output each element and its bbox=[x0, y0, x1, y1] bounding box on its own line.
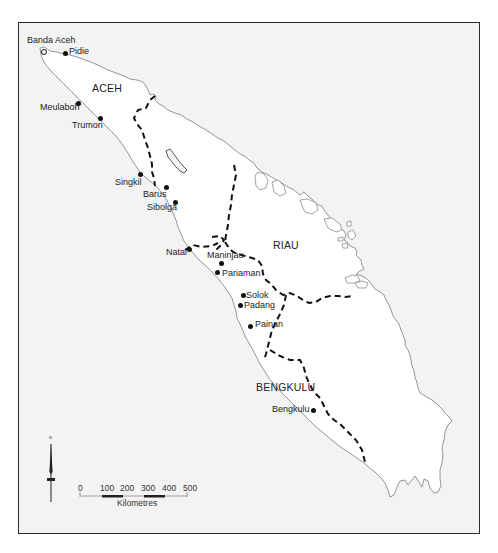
town-label-banda-aceh: Banda Aceh bbox=[27, 36, 76, 45]
region-label-bengkulu: BENGKULU bbox=[256, 382, 315, 393]
region-label-riau: RIAU bbox=[273, 240, 299, 251]
north-arrow bbox=[47, 444, 55, 502]
town-label-painan: Painan bbox=[255, 320, 283, 329]
town-marker-pidie bbox=[63, 51, 68, 56]
town-label-meulaboh: Meulaboh bbox=[40, 103, 80, 112]
scale-tick-300: 300 bbox=[141, 484, 155, 493]
town-label-solok: Solok bbox=[246, 291, 269, 300]
scale-tick-100: 100 bbox=[100, 484, 114, 493]
scale-tick-400: 400 bbox=[162, 484, 176, 493]
north-arrow-label: N bbox=[49, 436, 52, 440]
region-label-aceh: ACEH bbox=[92, 83, 122, 94]
scale-tick-200: 200 bbox=[120, 484, 134, 493]
town-marker-pariaman bbox=[215, 270, 220, 275]
town-label-bengkulu: Bengkulu bbox=[272, 405, 310, 414]
town-marker-banda-aceh bbox=[41, 49, 47, 55]
town-marker-painan bbox=[248, 324, 253, 329]
town-label-natal: Natal bbox=[166, 248, 187, 257]
town-label-trumon: Trumon bbox=[72, 121, 103, 130]
town-label-pariaman: Pariaman bbox=[222, 269, 261, 278]
town-label-padang: Padang bbox=[244, 301, 275, 310]
scale-tick-500: 500 bbox=[183, 484, 197, 493]
town-label-maninjau: Maninjau bbox=[207, 251, 244, 260]
town-label-pidie: Pidie bbox=[69, 47, 89, 56]
town-marker-maninjau bbox=[219, 261, 224, 266]
scale-tick-0: 0 bbox=[78, 484, 83, 493]
town-marker-bengkulu bbox=[311, 408, 316, 413]
town-label-sibolga: Sibolga bbox=[147, 203, 177, 212]
scale-unit-label: Kilometres bbox=[117, 499, 157, 508]
town-label-barus: Barus bbox=[143, 190, 167, 199]
town-marker-padang bbox=[238, 303, 243, 308]
town-label-singkil: Singkil bbox=[115, 178, 142, 187]
town-marker-natal bbox=[187, 247, 192, 252]
